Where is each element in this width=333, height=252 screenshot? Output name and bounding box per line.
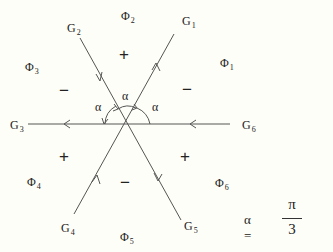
label-phi5: Φ5 <box>120 231 134 246</box>
sign-region6: + <box>180 148 190 165</box>
label-g5: G5 <box>184 220 198 235</box>
label-phi1: Φ1 <box>220 57 234 72</box>
label-phi4: Φ4 <box>27 176 41 191</box>
alpha-right: α <box>152 101 158 113</box>
formula-denominator: 3 <box>284 221 300 238</box>
sign-region5: − <box>120 174 130 191</box>
label-g2: G2 <box>67 22 81 37</box>
formula-lhs: α = <box>244 212 251 244</box>
arrow-g2-icon <box>96 72 102 81</box>
label-g4: G4 <box>61 222 75 237</box>
label-phi2: Φ2 <box>121 10 135 25</box>
arc-alpha-right <box>137 108 150 124</box>
formula-numerator: π <box>284 196 300 213</box>
sign-region3: − <box>59 82 69 99</box>
arrow-g4-icon <box>92 175 100 184</box>
label-g6: G6 <box>242 119 256 134</box>
fraction-bar <box>282 218 302 219</box>
label-g3: G3 <box>10 119 24 134</box>
sign-region1: − <box>182 81 192 98</box>
label-phi3: Φ3 <box>25 61 39 76</box>
sign-region4: + <box>59 148 69 165</box>
line-g2-g5 <box>80 38 181 220</box>
sign-region2: + <box>119 46 129 63</box>
ray-diagram <box>0 0 333 252</box>
label-g1: G1 <box>182 15 196 30</box>
label-phi6: Φ6 <box>215 177 229 192</box>
alpha-top: α <box>122 90 128 102</box>
alpha-left: α <box>95 101 101 113</box>
